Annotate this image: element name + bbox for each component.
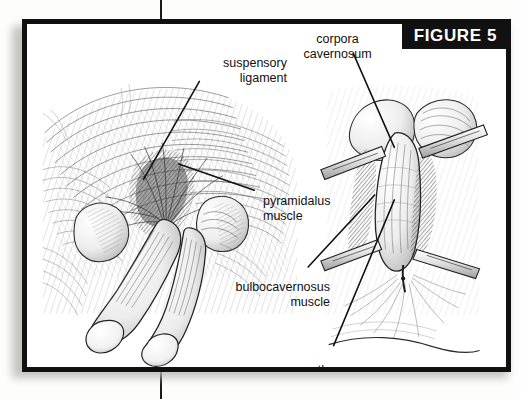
figure-number-badge: FIGURE 5 <box>402 24 506 49</box>
leader-pyramidalus <box>179 164 254 190</box>
label-pyramidalus-muscle: pyramidalus muscle <box>263 194 393 225</box>
label-bulbocavernosus-muscle: bulbocavernosus muscle <box>185 280 330 311</box>
leader-suspensory-ligament <box>144 81 200 179</box>
figure-frame: suspensory ligament corpora cavernosum p… <box>22 19 511 372</box>
figure-plate: suspensory ligament corpora cavernosum p… <box>27 24 506 367</box>
label-corpora-cavernosum: corpora cavernosum <box>275 32 400 63</box>
label-suspensory-ligament: suspensory ligament <box>167 56 287 87</box>
figure-page: suspensory ligament corpora cavernosum p… <box>0 0 521 399</box>
leader-corpora-cavernosum <box>353 53 394 147</box>
label-urethra: urethra <box>267 363 372 367</box>
